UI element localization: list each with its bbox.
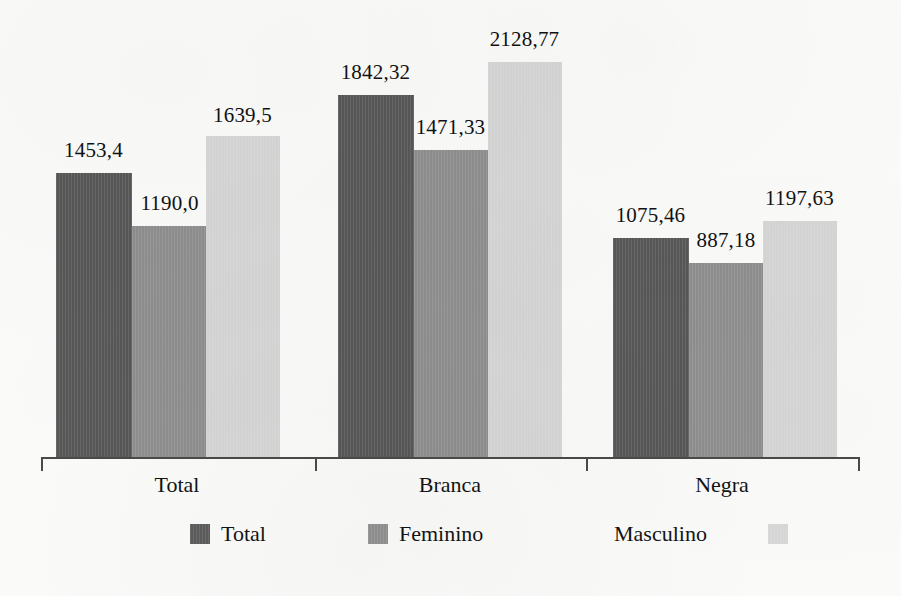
category-label-branca: Branca xyxy=(385,474,515,496)
axis-tick-start xyxy=(41,458,43,471)
bar-value-label: 1842,32 xyxy=(318,62,433,83)
chart-page: 1453,4 1190,0 1639,5 1842,32 1471,33 212… xyxy=(0,0,901,596)
category-label-total: Total xyxy=(112,474,242,496)
bar-branca-total xyxy=(338,95,414,457)
chart-legend: Total Feminino Masculino xyxy=(0,519,901,555)
category-label-negra: Negra xyxy=(657,474,787,496)
legend-swatch-total xyxy=(190,524,210,544)
x-axis-line xyxy=(41,457,860,459)
bar-negra-feminino xyxy=(689,263,763,457)
bar-chart-plot-area: 1453,4 1190,0 1639,5 1842,32 1471,33 212… xyxy=(0,0,901,596)
bar-branca-feminino xyxy=(414,150,488,457)
bar-negra-total xyxy=(613,238,689,457)
bar-value-label: 1197,63 xyxy=(742,188,857,209)
bar-total-masculino xyxy=(206,136,280,457)
bar-value-label: 1639,5 xyxy=(185,105,300,126)
legend-label-masculino: Masculino xyxy=(614,523,707,545)
bar-negra-masculino xyxy=(763,221,837,457)
bar-branca-masculino xyxy=(488,62,562,457)
legend-swatch-feminino xyxy=(368,524,388,544)
legend-swatch-masculino xyxy=(768,524,788,544)
bar-value-label: 2128,77 xyxy=(467,29,582,50)
legend-label-feminino: Feminino xyxy=(399,523,483,545)
bar-total-total xyxy=(56,173,132,457)
axis-tick-group-2 xyxy=(586,458,588,471)
bar-value-label: 1453,4 xyxy=(36,140,151,161)
legend-label-total: Total xyxy=(221,523,266,545)
bar-value-label: 887,18 xyxy=(676,230,776,251)
bar-value-label: 1075,46 xyxy=(593,205,708,226)
axis-tick-group-1 xyxy=(315,458,317,471)
bar-total-feminino xyxy=(132,226,206,457)
axis-tick-end xyxy=(858,458,860,471)
